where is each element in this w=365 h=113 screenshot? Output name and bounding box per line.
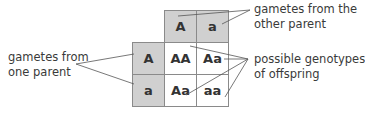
offspring-cell-1-2: Aa [196, 42, 229, 75]
label-one-parent: gametes from one parent [8, 50, 89, 80]
offspring-cell-1-1: AA [164, 42, 197, 75]
label-line: one parent [8, 65, 89, 80]
header-gamete-2: a [196, 10, 229, 43]
label-line: gametes from the [254, 2, 357, 17]
offspring-cell-2-1: Aa [164, 74, 197, 107]
offspring-cell-2-2: aa [196, 74, 229, 107]
label-offspring: possible genotypes of offspring [254, 52, 365, 82]
label-line: possible genotypes [254, 52, 365, 67]
label-line: other parent [254, 17, 357, 32]
side-gamete-2: a [132, 74, 165, 107]
label-line: of offspring [254, 67, 365, 82]
label-other-parent: gametes from the other parent [254, 2, 357, 32]
side-gamete-1: A [132, 42, 165, 75]
header-gamete-1: A [164, 10, 197, 43]
label-line: gametes from [8, 50, 89, 65]
